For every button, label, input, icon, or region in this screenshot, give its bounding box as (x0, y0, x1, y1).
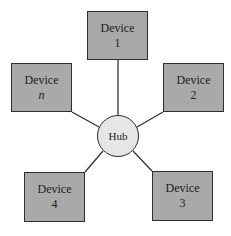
link-hub-device-4 (85, 151, 103, 172)
device-number: 2 (191, 88, 197, 103)
device-label: Device (101, 21, 135, 36)
link-hub-device-n (72, 112, 99, 127)
link-hub-device-2 (137, 112, 163, 127)
device-number: n (39, 88, 45, 103)
device-n-node: Device n (11, 63, 72, 112)
device-label: Device (25, 73, 59, 88)
device-label: Device (177, 73, 211, 88)
link-hub-device-3 (133, 151, 152, 171)
hub-label: Hub (109, 130, 128, 142)
device-number: 1 (115, 36, 121, 51)
hub-node: Hub (97, 115, 139, 157)
device-4-node: Device 4 (24, 172, 85, 222)
device-3-node: Device 3 (152, 171, 213, 221)
device-label: Device (38, 182, 72, 197)
device-1-node: Device 1 (87, 11, 148, 60)
device-label: Device (166, 181, 200, 196)
device-number: 3 (180, 196, 186, 211)
device-2-node: Device 2 (163, 63, 224, 112)
device-number: 4 (52, 197, 58, 212)
